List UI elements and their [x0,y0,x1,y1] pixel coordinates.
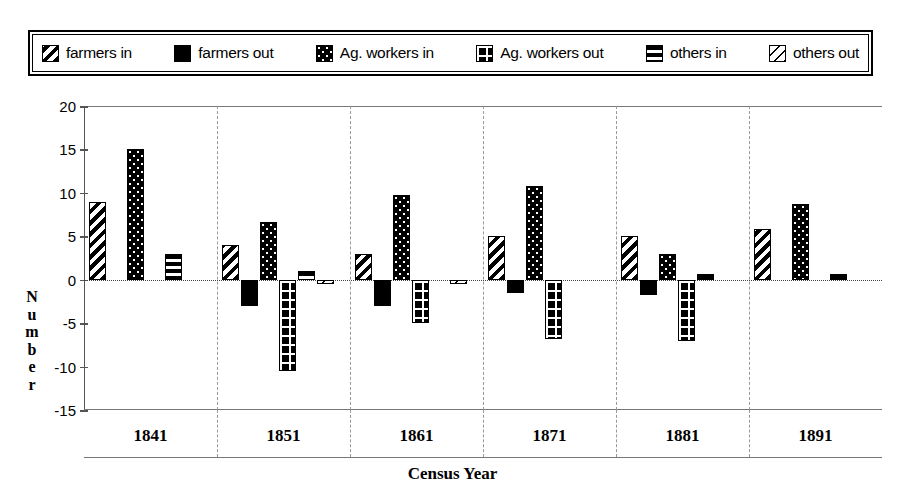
bar [526,186,543,280]
y-axis-title-letter: r [22,376,42,394]
light-diagonal-swatch [769,45,786,62]
bar [355,254,372,280]
y-axis-tick-mark [80,367,88,369]
bar [127,149,144,279]
x-axis-tick-label: 1871 [533,426,567,446]
y-axis-tick-label: 10 [36,184,76,201]
solid-black-swatch [174,45,191,62]
bar [659,254,676,280]
y-axis-tick-label: 5 [36,228,76,245]
x-axis-tick-label: 1861 [400,426,434,446]
y-axis-title-letter: N [22,288,42,306]
legend-item-label: others in [670,45,727,61]
y-axis-tick-mark [80,149,88,151]
legend-item-farmers-out[interactable]: farmers out [174,45,273,62]
black-grid-swatch [476,45,493,62]
bar [830,274,847,280]
group-separator-lower [483,410,484,457]
bar [754,229,771,279]
legend-item-label: farmers out [198,45,273,61]
y-axis-title: Number [22,288,42,393]
bar [488,236,505,279]
bar [298,271,315,280]
x-axis-tick-label: 1881 [666,426,700,446]
bar [393,195,410,280]
y-axis-tick-label: 0 [36,271,76,288]
x-axis-title: Census Year [0,464,905,482]
group-separator [217,106,218,410]
y-axis-tick-mark [80,410,88,412]
chart-plot-area: Number 184118511861187118811891 Census Y… [0,92,905,482]
bar [222,245,239,280]
group-separator [483,106,484,410]
y-axis-tick-label: 20 [36,98,76,115]
bar [792,204,809,280]
group-separator-lower [616,410,617,457]
bar [260,222,277,280]
bar [317,280,334,284]
bar [450,280,467,284]
y-axis-tick-mark [80,236,88,238]
y-axis-title-letter: b [22,341,42,359]
bar [697,274,714,280]
year-label-band: 184118511861187118811891 [84,410,882,458]
bar [640,280,657,296]
bar [412,280,429,323]
group-separator-lower [749,410,750,457]
legend-item-label: others out [793,45,859,61]
y-axis-tick-mark [80,193,88,195]
y-axis-tick-mark [80,323,88,325]
legend-item-farmers-in[interactable]: farmers in [42,45,132,62]
x-axis-tick-label: 1851 [267,426,301,446]
bar [374,280,391,306]
chart-legend: farmers infarmers outAg. workers inAg. w… [28,30,873,76]
group-separator [749,106,750,410]
horizontal-stripe-swatch [646,45,663,62]
bar [241,280,258,306]
bar [279,280,296,371]
group-separator-lower [217,410,218,457]
bar [621,236,638,279]
y-axis-tick-label: -10 [36,358,76,375]
bar [545,280,562,339]
y-axis-tick-label: -15 [36,402,76,419]
legend-item-ag-workers-out[interactable]: Ag. workers out [476,45,603,62]
legend-item-ag-workers-in[interactable]: Ag. workers in [316,45,434,62]
y-axis-tick-mark [80,106,88,108]
legend-item-label: farmers in [66,45,132,61]
bar [165,254,182,280]
diagonal-stripe-swatch [42,45,59,62]
group-separator-lower [350,410,351,457]
legend-item-others-out[interactable]: others out [769,45,859,62]
legend-item-others-in[interactable]: others in [646,45,727,62]
x-axis-tick-label: 1841 [134,426,168,446]
black-dotted-swatch [316,45,333,62]
y-axis-tick-label: 15 [36,141,76,158]
bar [507,280,524,293]
bar [89,202,106,280]
legend-item-label: Ag. workers in [340,45,434,61]
bar [678,280,695,341]
group-separator [350,106,351,410]
y-axis-tick-label: -5 [36,315,76,332]
x-axis-tick-label: 1891 [799,426,833,446]
legend-item-label: Ag. workers out [500,45,603,61]
group-separator [616,106,617,410]
